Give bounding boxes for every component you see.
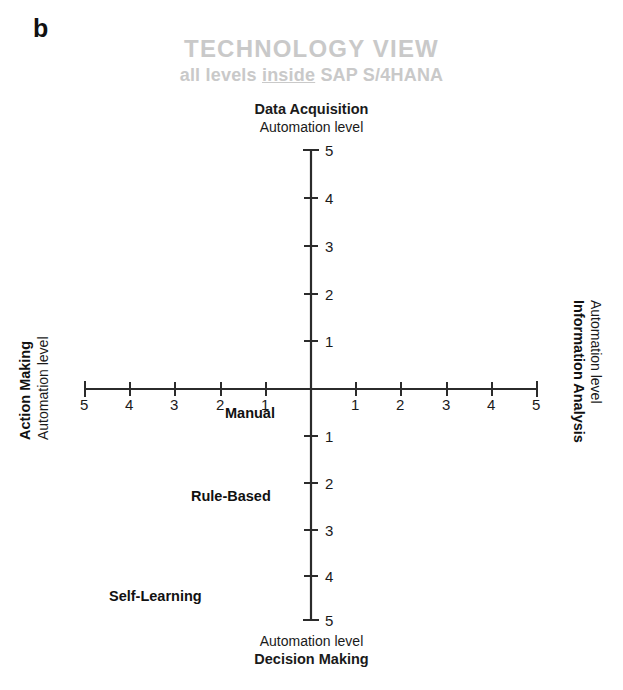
tick-top-1: 1 [325,333,333,350]
bottom-axis-label-group: Automation level Decision Making [0,632,623,668]
tick-right-3: 3 [442,396,450,413]
left-axis-label-group: Action Making Automation level [13,300,73,440]
bottom-axis-title: Decision Making [0,650,623,668]
tick-left-4: 4 [125,396,133,413]
tick-top-4: 4 [325,190,333,207]
label-manual: Manual [225,405,275,421]
right-axis-label-group: Information Analysis Automation level [566,300,623,480]
bottom-axis-subtitle: Automation level [0,632,623,650]
tick-bottom-3: 3 [325,522,333,539]
label-rule-based: Rule-Based [191,488,271,504]
top-axis-label-group: Data Acquisition Automation level [0,100,623,136]
right-axis-title: Information Analysis [571,300,587,443]
tick-top-3: 3 [325,238,333,255]
tick-bottom-5: 5 [325,612,333,629]
tick-right-5: 5 [532,396,540,413]
tick-bottom-1: 1 [325,428,333,445]
tick-left-2: 2 [216,396,224,413]
tick-top-2: 2 [325,286,333,303]
tick-left-3: 3 [170,396,178,413]
top-axis-subtitle: Automation level [0,118,623,136]
tick-right-2: 2 [396,396,404,413]
top-axis-title: Data Acquisition [0,100,623,118]
left-axis-subtitle: Automation level [35,336,51,440]
tick-bottom-2: 2 [325,475,333,492]
left-axis-title: Action Making [17,341,33,440]
tick-right-1: 1 [351,396,359,413]
tick-bottom-4: 4 [325,568,333,585]
label-self-learning: Self-Learning [109,588,202,604]
tick-left-5: 5 [80,396,88,413]
right-axis-subtitle: Automation level [588,300,604,404]
tick-top-5: 5 [325,142,333,159]
tick-right-4: 4 [487,396,495,413]
